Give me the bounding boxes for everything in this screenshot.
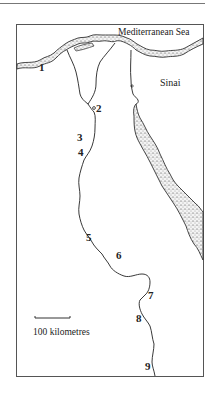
site-label-4: 4: [78, 146, 84, 158]
egypt-map: 1 2 3 4 5 6 7 8 9 Mediterranean Sea Sina…: [0, 0, 217, 395]
site-label-7: 7: [148, 289, 154, 301]
site-2-marker: [93, 107, 96, 110]
site-label-9: 9: [145, 360, 151, 372]
site-label-5: 5: [86, 231, 92, 243]
site-label-3: 3: [77, 131, 83, 143]
scale-bar-label: 100 kilometres: [33, 327, 90, 337]
nile-rosetta-branch: [67, 50, 88, 104]
suez-canal: [131, 50, 139, 104]
site-label-6: 6: [116, 249, 122, 261]
mediterranean-coastline: [17, 35, 203, 69]
site-label-2: 2: [96, 102, 102, 114]
nile-damietta-branch: [88, 43, 115, 104]
red-sea: [134, 104, 203, 260]
site-label-8: 8: [136, 312, 142, 324]
scale-bar: [35, 316, 70, 318]
site-label-1: 1: [39, 61, 45, 73]
mediterranean-sea-label: Mediterranean Sea: [118, 27, 190, 37]
sinai-label: Sinai: [160, 77, 181, 88]
